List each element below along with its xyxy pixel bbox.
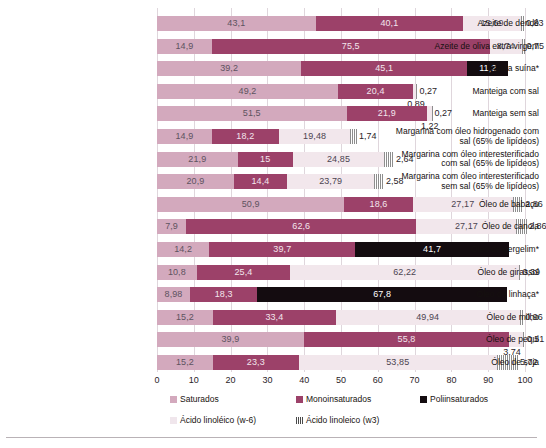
category-label-line: Óleo de girassol <box>391 268 539 278</box>
segment-monoinsaturados-value: 18,3 <box>190 288 257 301</box>
segment-acido-linoleico-w6[interactable]: 24,85 <box>293 152 384 167</box>
category-label: Margarina com óleo interesterificadosem … <box>391 172 543 191</box>
segment-saturados[interactable]: 15,2 <box>157 355 213 370</box>
segment-acido-linoleico-w6-value: 24,85 <box>293 153 384 166</box>
x-axis-tick: 70 <box>410 374 420 386</box>
category-label-line: Manteiga com sal <box>391 87 539 97</box>
segment-saturados[interactable]: 14,2 <box>157 242 209 257</box>
category-label: Banha suína* <box>391 64 543 74</box>
segment-saturados[interactable]: 7,9 <box>157 219 186 234</box>
segment-monoinsaturados[interactable]: 39,7 <box>209 242 355 257</box>
category-label: Manteiga com sal <box>391 87 543 97</box>
x-axis-tick: 80 <box>446 374 456 386</box>
segment-saturados-value: 43,1 <box>157 17 316 30</box>
category-label: Óleo de soja <box>391 358 543 368</box>
segment-monoinsaturados[interactable]: 18,2 <box>212 129 279 144</box>
legend-label: Saturados <box>180 394 219 405</box>
category-label-line: com sal (65% de lipídeos) <box>391 159 539 169</box>
segment-monoinsaturados-value: 18,2 <box>212 130 279 143</box>
x-axis-tick: 20 <box>226 374 236 386</box>
segment-monoinsaturados-value: 33,4 <box>213 311 336 324</box>
legend-swatch-icon <box>420 396 427 403</box>
legend-item[interactable]: Poliinsaturados <box>420 394 488 405</box>
segment-saturados-value: 7,9 <box>157 220 186 233</box>
segment-monoinsaturados-value: 25,4 <box>197 266 290 279</box>
legend-swatch-icon <box>170 417 177 424</box>
category-label-line: Manteiga sem sal <box>391 109 539 119</box>
segment-monoinsaturados-value: 23,3 <box>213 356 299 369</box>
segment-saturados-value: 20,9 <box>157 175 234 188</box>
segment-saturados[interactable]: 15,2 <box>157 310 213 325</box>
x-axis-tick: 0 <box>154 374 159 386</box>
segment-monoinsaturados[interactable]: 33,4 <box>213 310 336 325</box>
x-axis: 0102030405060708090100 <box>157 374 525 388</box>
segment-saturados-value: 14,9 <box>157 40 212 53</box>
segment-saturados-value: 14,2 <box>157 243 209 256</box>
segment-monoinsaturados-value: 39,7 <box>209 243 355 256</box>
legend-item[interactable]: Saturados <box>170 394 219 405</box>
segment-saturados-value: 49,2 <box>157 85 338 98</box>
segment-saturados-value: 15,2 <box>157 311 213 324</box>
legend-label: Poliinsaturados <box>430 394 488 405</box>
segment-saturados-value: 51,5 <box>157 107 347 120</box>
legend-swatch-icon <box>296 417 303 424</box>
segment-acido-linolenico-w3[interactable] <box>374 174 383 189</box>
segment-monoinsaturados[interactable]: 18,3 <box>190 287 257 302</box>
category-label-line: Banha suína* <box>391 64 539 74</box>
category-label-line: Óleo de milho <box>391 313 539 323</box>
segment-saturados-value: 21,9 <box>157 153 238 166</box>
segment-monoinsaturados[interactable]: 23,3 <box>213 355 299 370</box>
legend-item[interactable]: Monoinsaturados <box>296 394 371 405</box>
legend-label: Monoinsaturados <box>306 394 371 405</box>
category-label: Margarina com óleo hidrogenado comsal (6… <box>391 127 543 146</box>
segment-monoinsaturados[interactable]: 15 <box>238 152 293 167</box>
segment-saturados[interactable]: 8,98 <box>157 287 190 302</box>
segment-saturados[interactable]: 51,5 <box>157 106 347 121</box>
segment-saturados-value: 50,9 <box>157 198 344 211</box>
legend-item[interactable]: Ácido linoléico (w-6) <box>170 415 256 426</box>
category-label-line: Óleo de babaçu <box>391 200 539 210</box>
category-label: Óleo de linhaça* <box>391 290 543 300</box>
segment-acido-linoleico-w6[interactable]: 19,48 <box>279 129 351 144</box>
category-label: Azeite de oliva extra virgem <box>391 42 543 52</box>
segment-monoinsaturados[interactable]: 14,4 <box>234 174 287 189</box>
category-label: Óleo de pequi <box>391 335 543 345</box>
segment-monoinsaturados[interactable]: 62,6 <box>186 219 416 234</box>
legend-item[interactable]: Ácido linoleico (w3) <box>296 415 379 426</box>
segment-monoinsaturados[interactable]: 25,4 <box>197 265 290 280</box>
category-label-line: Óleo de linhaça* <box>391 290 539 300</box>
segment-saturados-value: 14,9 <box>157 130 212 143</box>
segment-acido-linoleico-w6-value: 23,79 <box>287 175 375 188</box>
segment-saturados[interactable]: 21,9 <box>157 152 238 167</box>
x-axis-tick: 10 <box>189 374 199 386</box>
segment-saturados[interactable]: 10,8 <box>157 265 197 280</box>
segment-saturados[interactable]: 50,9 <box>157 197 344 212</box>
category-label-line: Azeite de dendê <box>391 19 539 29</box>
segment-acido-linolenico-w3-value: 1,74 <box>359 130 377 142</box>
segment-saturados-value: 39,9 <box>157 333 304 346</box>
segment-monoinsaturados-value: 15 <box>238 153 293 166</box>
segment-acido-linoleico-w6[interactable]: 23,79 <box>287 174 375 189</box>
segment-saturados[interactable]: 20,9 <box>157 174 234 189</box>
segment-saturados-value: 10,8 <box>157 266 197 279</box>
segment-saturados[interactable]: 39,2 <box>157 61 301 76</box>
segment-acido-linolenico-w3[interactable] <box>350 129 356 144</box>
segment-saturados[interactable]: 49,2 <box>157 84 338 99</box>
legend-label: Ácido linoleico (w3) <box>306 415 379 426</box>
segment-saturados-value: 39,2 <box>157 62 301 75</box>
x-axis-tick: 50 <box>336 374 346 386</box>
segment-saturados[interactable]: 14,9 <box>157 39 212 54</box>
segment-saturados-value: 8,98 <box>157 288 190 301</box>
segment-saturados[interactable]: 43,1 <box>157 16 316 31</box>
category-label-line: Óleo de canola <box>391 222 539 232</box>
segment-saturados-value: 15,2 <box>157 356 213 369</box>
legend-swatch-icon <box>296 396 303 403</box>
legend-swatch-icon <box>170 396 177 403</box>
segment-saturados[interactable]: 39,9 <box>157 332 304 347</box>
category-label-line: Óleo de gergelim* <box>391 245 539 255</box>
x-axis-tick: 60 <box>373 374 383 386</box>
category-label-line: Azeite de oliva extra virgem <box>391 42 539 52</box>
category-label-line: Óleo de soja <box>391 358 539 368</box>
segment-saturados[interactable]: 14,9 <box>157 129 212 144</box>
